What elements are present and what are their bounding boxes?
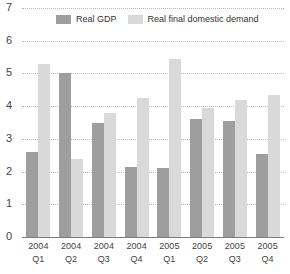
x-axis-label-quarter: Q3 xyxy=(219,253,252,266)
x-axis-label-quarter: Q2 xyxy=(186,253,219,266)
x-axis-label-year: 2005 xyxy=(153,240,186,253)
bar xyxy=(202,108,214,237)
bar xyxy=(137,98,149,237)
y-tick-label-4: 4 xyxy=(0,100,12,111)
legend-swatch-real-final-domestic-demand xyxy=(128,15,143,24)
x-axis-label: 2005Q3 xyxy=(219,240,252,266)
bar-group xyxy=(153,8,186,237)
legend-label-real-gdp: Real GDP xyxy=(76,15,117,24)
bars-layer xyxy=(22,8,284,237)
plot-area: 01234567 xyxy=(22,8,284,237)
legend-item-real-gdp: Real GDP xyxy=(56,15,117,24)
x-axis-label: 2005Q2 xyxy=(186,240,219,266)
x-axis-label-year: 2004 xyxy=(120,240,153,253)
x-axis-label-year: 2004 xyxy=(88,240,121,253)
x-axis-label-year: 2005 xyxy=(186,240,219,253)
bar xyxy=(125,167,137,237)
y-tick-label-0: 0 xyxy=(0,231,12,242)
x-axis-label: 2004Q3 xyxy=(88,240,121,266)
x-axis-label-quarter: Q4 xyxy=(120,253,153,266)
x-axis-label-quarter: Q2 xyxy=(55,253,88,266)
legend-swatch-real-gdp xyxy=(56,15,71,24)
x-axis-label: 2005Q1 xyxy=(153,240,186,266)
bar-group xyxy=(219,8,252,237)
bar-group xyxy=(88,8,121,237)
bar-group xyxy=(251,8,284,237)
x-axis-labels: 2004Q12004Q22004Q32004Q42005Q12005Q22005… xyxy=(22,240,284,266)
bar xyxy=(268,95,280,237)
legend-label-real-final-domestic-demand: Real final domestic demand xyxy=(148,15,259,24)
bar xyxy=(38,64,50,237)
x-axis-label-year: 2004 xyxy=(22,240,55,253)
bar-group xyxy=(55,8,88,237)
x-axis-label-year: 2004 xyxy=(55,240,88,253)
x-axis-label: 2004Q4 xyxy=(120,240,153,266)
y-tick-label-6: 6 xyxy=(0,35,12,46)
bar xyxy=(157,168,169,237)
x-axis-label: 2004Q2 xyxy=(55,240,88,266)
y-tick-label-3: 3 xyxy=(0,133,12,144)
x-axis-label-quarter: Q3 xyxy=(88,253,121,266)
legend-item-real-final-domestic-demand: Real final domestic demand xyxy=(128,15,259,24)
bar xyxy=(71,159,83,238)
bar xyxy=(235,100,247,237)
y-tick-label-1: 1 xyxy=(0,198,12,209)
x-axis-label: 2004Q1 xyxy=(22,240,55,266)
chart-legend: Real GDP Real final domestic demand xyxy=(56,15,259,24)
bar xyxy=(59,73,71,237)
x-axis-label-quarter: Q1 xyxy=(153,253,186,266)
x-axis-label: 2005Q4 xyxy=(251,240,284,266)
bar-chart: Real GDP Real final domestic demand 0123… xyxy=(0,0,290,274)
bar xyxy=(92,123,104,238)
x-axis-label-quarter: Q4 xyxy=(251,253,284,266)
y-tick-label-7: 7 xyxy=(0,2,12,13)
bar xyxy=(26,152,38,237)
x-axis-label-quarter: Q1 xyxy=(22,253,55,266)
x-axis-label-year: 2005 xyxy=(251,240,284,253)
gridline-0 xyxy=(22,237,284,238)
bar xyxy=(256,154,268,237)
bar xyxy=(169,59,181,237)
bar-group xyxy=(120,8,153,237)
x-axis-label-year: 2005 xyxy=(219,240,252,253)
bar xyxy=(190,119,202,237)
bar xyxy=(223,121,235,237)
bar-group xyxy=(22,8,55,237)
y-tick-label-5: 5 xyxy=(0,67,12,78)
bar-group xyxy=(186,8,219,237)
y-tick-label-2: 2 xyxy=(0,166,12,177)
bar xyxy=(104,113,116,237)
